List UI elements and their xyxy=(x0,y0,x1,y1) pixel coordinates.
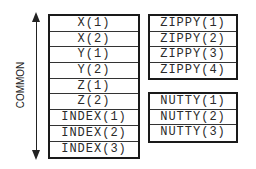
nutty-block: NUTTY(1) NUTTY(2) NUTTY(3) xyxy=(148,92,238,143)
common-row: INDEX(2) xyxy=(50,126,138,142)
common-row: X(2) xyxy=(50,32,138,48)
zippy-row: ZIPPY(4) xyxy=(150,63,236,79)
zippy-row: ZIPPY(3) xyxy=(150,47,236,63)
common-row: INDEX(1) xyxy=(50,110,138,126)
common-row: Z(2) xyxy=(50,94,138,110)
common-label: COMMON xyxy=(15,62,26,109)
common-row: Y(1) xyxy=(50,47,138,63)
arrow-shaft xyxy=(36,20,37,153)
common-row: X(1) xyxy=(50,16,138,32)
common-block: X(1) X(2) Y(1) Y(2) Z(1) Z(2) INDEX(1) I… xyxy=(48,14,140,159)
zippy-row: ZIPPY(1) xyxy=(150,16,236,32)
zippy-row: ZIPPY(2) xyxy=(150,32,236,48)
arrow-down-icon xyxy=(32,150,40,160)
common-row: Z(1) xyxy=(50,79,138,95)
nutty-row: NUTTY(2) xyxy=(150,110,236,126)
common-row: INDEX(3) xyxy=(50,142,138,158)
nutty-row: NUTTY(1) xyxy=(150,94,236,110)
nutty-row: NUTTY(3) xyxy=(150,125,236,141)
common-row: Y(2) xyxy=(50,63,138,79)
zippy-block: ZIPPY(1) ZIPPY(2) ZIPPY(3) ZIPPY(4) xyxy=(148,14,238,80)
